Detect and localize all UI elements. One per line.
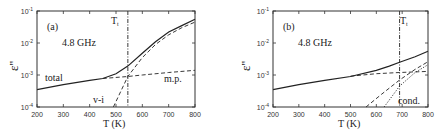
y-tick-label: 10-3: [21, 70, 33, 79]
panel-b-frequency: 4.8 GHz: [298, 37, 332, 48]
panel-b: 20030040050060070080010-410-310-210-1 (b…: [238, 6, 434, 130]
x-tick-label: 500: [345, 111, 357, 118]
x-tick-label: 300: [293, 111, 305, 118]
x-tick-label: 600: [370, 111, 382, 118]
x-tick-label: 500: [110, 111, 122, 118]
y-tick-label: 10-2: [257, 38, 269, 47]
x-tick-label: 700: [396, 111, 408, 118]
panel-a: 20030040050060070080010-410-310-210-1 (a…: [6, 6, 201, 130]
series-vi: [113, 22, 195, 107]
y-tick-label: 10-4: [257, 102, 269, 111]
y-tick-label: 10-3: [257, 70, 269, 79]
panel-b-label: (b): [283, 21, 295, 33]
panel-a-mp-label: m.p.: [164, 73, 182, 84]
series-total: [273, 51, 428, 89]
y-tick-label: 10-1: [21, 6, 33, 15]
panel-a-label: (a): [47, 21, 58, 33]
panel-a-ylabel: ε'': [6, 61, 21, 71]
x-tick-label: 800: [189, 111, 201, 118]
panel-a-xlabel: T (K): [103, 118, 125, 130]
x-tick-label: 800: [422, 111, 434, 118]
panel-a-vi-label: v-i: [93, 94, 104, 105]
panel-b-ylabel: ε'': [238, 61, 253, 71]
panel-b-cond-label: cond.: [398, 95, 420, 106]
panel-b-xlabel: T (K): [338, 118, 360, 130]
y-tick-label: 10-4: [21, 102, 33, 111]
panel-a-tt-label: Tt: [111, 15, 119, 27]
x-tick-label: 400: [319, 111, 331, 118]
panel-a-total-label: total: [45, 72, 63, 83]
y-tick-label: 10-1: [257, 6, 269, 15]
x-tick-label: 700: [163, 111, 175, 118]
x-tick-label: 600: [136, 111, 148, 118]
panel-a-frequency: 4.8 GHz: [62, 37, 96, 48]
x-tick-label: 300: [57, 111, 69, 118]
x-tick-label: 200: [31, 111, 43, 118]
x-tick-label: 200: [267, 111, 279, 118]
figure: 20030040050060070080010-410-310-210-1 (a…: [0, 0, 437, 132]
panel-b-tt-label: Tt: [400, 15, 408, 27]
y-tick-label: 10-2: [21, 38, 33, 47]
x-tick-label: 400: [84, 111, 96, 118]
